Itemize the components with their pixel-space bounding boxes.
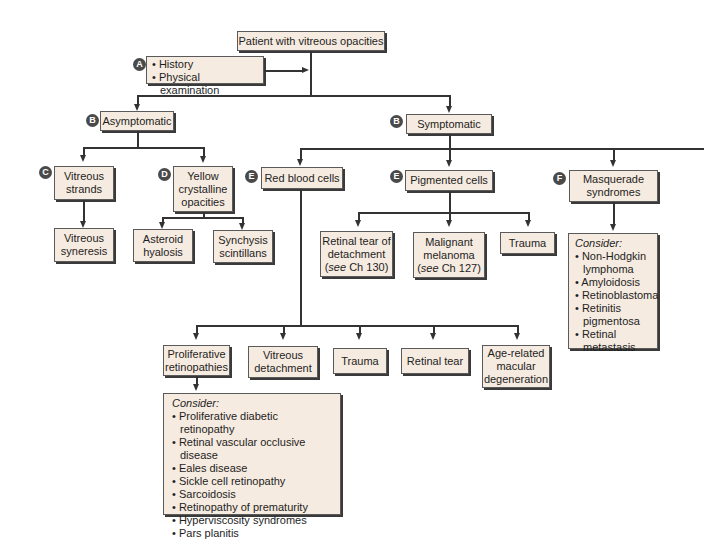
node-text: Asteroid bbox=[143, 233, 183, 246]
node-text: scintillans bbox=[219, 247, 267, 260]
masquerade-syndromes-node: Masquerade syndromes bbox=[569, 170, 658, 202]
list-item: Sickle cell retinopathy bbox=[172, 475, 332, 488]
arrow-down-icon bbox=[514, 333, 520, 340]
list-item: Pars planitis bbox=[172, 527, 332, 540]
connector bbox=[196, 325, 518, 327]
symptomatic-node: Symptomatic bbox=[406, 114, 492, 134]
arrow-down-icon bbox=[80, 221, 86, 228]
history-exam-node: History Physical examination bbox=[146, 56, 264, 84]
connector bbox=[196, 376, 198, 384]
connector bbox=[358, 212, 529, 214]
node-text: hyalosis bbox=[143, 246, 183, 259]
list-item: Non-Hodgkin lymphoma bbox=[575, 250, 659, 276]
amd-node: Age-related macular degeneration bbox=[482, 345, 550, 388]
arrow-down-icon bbox=[610, 224, 616, 231]
connector bbox=[300, 148, 302, 159]
asymptomatic-label: Asymptomatic bbox=[102, 115, 171, 128]
node-text: Vitreous bbox=[64, 170, 104, 183]
connector bbox=[358, 212, 360, 220]
node-text: Vitreous bbox=[263, 349, 303, 362]
node-text: macular bbox=[496, 360, 535, 373]
list-item: Retinoblastoma bbox=[575, 289, 659, 302]
ref-text: Ch 127) bbox=[439, 262, 481, 274]
connector bbox=[433, 325, 435, 333]
badge-e: E bbox=[245, 170, 258, 183]
chapter-ref: (see Ch 130) bbox=[325, 261, 389, 274]
list-item: Retinitis pigmentosa bbox=[575, 302, 659, 328]
red-blood-cells-node: Red blood cells bbox=[261, 167, 343, 189]
node-text: Proliferative bbox=[167, 348, 225, 361]
list-item: Retinal vascular occlusive disease bbox=[172, 436, 332, 462]
list-item: Sarcoidosis bbox=[172, 488, 332, 501]
list-item: Retinopathy of prematurity bbox=[172, 501, 332, 514]
connector bbox=[203, 147, 205, 156]
see-text: see bbox=[328, 261, 346, 273]
badge-c: C bbox=[39, 166, 52, 179]
node-text: Retinal tear bbox=[407, 355, 463, 368]
consider-heading: Consider: bbox=[172, 397, 332, 410]
arrow-down-icon bbox=[446, 160, 452, 167]
vitreous-strands-node: Vitreous strands bbox=[54, 166, 114, 200]
list-item: Retinal metastasis bbox=[575, 328, 659, 354]
connector bbox=[528, 212, 530, 220]
connector bbox=[449, 148, 451, 160]
arrow-down-icon bbox=[430, 333, 436, 340]
node-text: Pigmented cells bbox=[410, 174, 488, 187]
node-text: Age-related bbox=[488, 347, 545, 360]
connector bbox=[162, 217, 243, 219]
node-text: Yellow bbox=[187, 170, 218, 183]
arrow-right-icon bbox=[302, 67, 309, 73]
synchysis-scintillans-node: Synchysis scintillans bbox=[213, 230, 273, 263]
malignant-melanoma-node: Malignant melanoma (see Ch 127) bbox=[413, 232, 485, 278]
badge-b: B bbox=[86, 114, 99, 127]
history-exam-list: History Physical examination bbox=[152, 58, 258, 97]
arrow-down-icon bbox=[239, 223, 245, 230]
asymptomatic-node: Asymptomatic bbox=[100, 111, 174, 131]
connector bbox=[613, 148, 615, 160]
connector bbox=[449, 191, 451, 213]
retinal-tear-node: Retinal tear bbox=[401, 348, 469, 374]
arrow-down-icon bbox=[446, 106, 452, 113]
connector bbox=[449, 212, 451, 220]
retinal-tear-detachment-node: Retinal tear of detachment (see Ch 130) bbox=[320, 231, 393, 277]
node-text: Synchysis bbox=[218, 234, 268, 247]
symptomatic-label: Symptomatic bbox=[417, 118, 481, 131]
node-text: Retinal tear of bbox=[322, 235, 390, 248]
node-text: Masquerade bbox=[583, 173, 644, 186]
connector bbox=[300, 148, 704, 150]
badge-e: E bbox=[390, 170, 403, 183]
node-text: retinopathies bbox=[165, 361, 228, 374]
masquerade-consider-box: Consider: Non-Hodgkin lymphoma Amyloidos… bbox=[568, 233, 658, 349]
node-text: degeneration bbox=[484, 373, 548, 386]
connector bbox=[137, 131, 139, 148]
list-item: Amyloidosis bbox=[575, 276, 659, 289]
ref-text: Ch 130) bbox=[346, 261, 388, 273]
arrow-down-icon bbox=[193, 333, 199, 340]
arrow-down-icon bbox=[80, 155, 86, 162]
masquerade-consider-list: Non-Hodgkin lymphoma Amyloidosis Retinob… bbox=[575, 250, 659, 354]
vitreous-detachment-node: Vitreous detachment bbox=[248, 346, 318, 378]
node-text: opacities bbox=[181, 196, 224, 209]
connector bbox=[83, 147, 85, 155]
proliferative-retinopathies-node: Proliferative retinopathies bbox=[163, 345, 230, 376]
vitreous-syneresis-node: Vitreous syneresis bbox=[54, 228, 114, 262]
node-text: detachment bbox=[254, 362, 311, 375]
node-text: Trauma bbox=[509, 237, 547, 250]
root-label: Patient with vitreous opacities bbox=[239, 35, 384, 48]
badge-f: F bbox=[553, 172, 566, 185]
arrow-down-icon bbox=[193, 384, 199, 391]
list-item: Hyperviscosity syndromes bbox=[172, 514, 332, 527]
arrow-down-icon bbox=[159, 222, 165, 229]
connector bbox=[196, 325, 198, 333]
arrow-down-icon bbox=[297, 159, 303, 166]
list-item: History bbox=[152, 58, 258, 71]
chapter-ref: (see Ch 127) bbox=[417, 262, 481, 275]
trauma-pigmented-node: Trauma bbox=[500, 232, 555, 254]
node-text: Malignant bbox=[425, 236, 473, 249]
connector bbox=[283, 325, 285, 333]
connector bbox=[517, 325, 519, 333]
arrow-down-icon bbox=[355, 220, 361, 227]
connector bbox=[137, 95, 450, 97]
node-text: Red blood cells bbox=[264, 172, 339, 185]
consider-heading: Consider: bbox=[575, 237, 659, 250]
